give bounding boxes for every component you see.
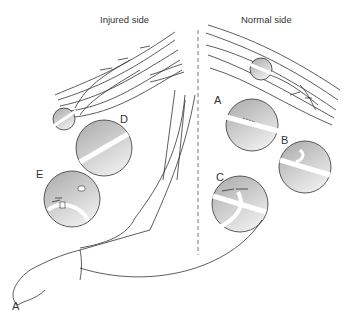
injured-side-heading: Injured side	[100, 14, 149, 25]
inset-label-c: C	[216, 171, 224, 183]
inset-label-d: D	[120, 113, 128, 125]
inset-label-e: E	[36, 168, 43, 180]
nerve-transfer-diagram	[0, 0, 351, 317]
figure-label: A	[12, 300, 19, 312]
inset-label-a: A	[214, 94, 221, 106]
inset-label-b: B	[281, 134, 288, 146]
left-brachial-plexus	[55, 32, 184, 118]
normal-side-heading: Normal side	[241, 14, 292, 25]
inset-e	[44, 171, 100, 227]
inset-c	[207, 176, 268, 232]
inset-a	[226, 99, 278, 151]
inset-d	[76, 120, 132, 176]
inset-b	[279, 141, 331, 193]
